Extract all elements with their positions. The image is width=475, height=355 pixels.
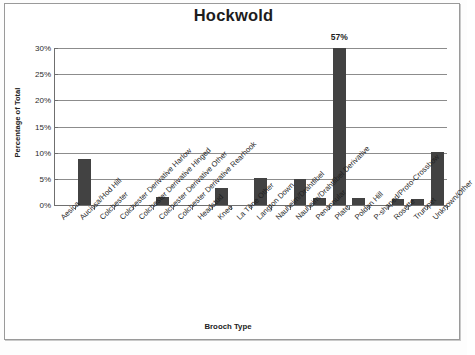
y-axis-tick-label: 5% (17, 174, 51, 183)
y-axis-tick-labels: 30%25%20%15%10%5%0% (13, 48, 51, 205)
y-axis-tick-mark (54, 74, 58, 75)
y-axis-tick-label: 0% (17, 201, 51, 210)
y-axis-tick-mark (54, 205, 58, 206)
y-axis-tick-label: 20% (17, 96, 51, 105)
y-axis-tick-mark (54, 127, 58, 128)
chart-title: Hockwold (0, 6, 467, 25)
gridline (55, 74, 447, 75)
y-axis-tick-mark (54, 100, 58, 101)
x-axis-title: Brooch Type (0, 322, 456, 331)
y-axis-tick-label: 25% (17, 70, 51, 79)
y-axis-tick-mark (54, 179, 58, 180)
gridline (55, 127, 447, 128)
y-axis-tick-label: 10% (17, 148, 51, 157)
gridline (55, 100, 447, 101)
gridline (55, 48, 447, 49)
y-axis-tick-label: 30% (17, 44, 51, 53)
y-axis-tick-mark (54, 153, 58, 154)
y-axis-tick-mark (54, 48, 58, 49)
bar-value-label: 57% (331, 32, 348, 42)
bar (78, 159, 91, 205)
y-axis-tick-label: 15% (17, 122, 51, 131)
